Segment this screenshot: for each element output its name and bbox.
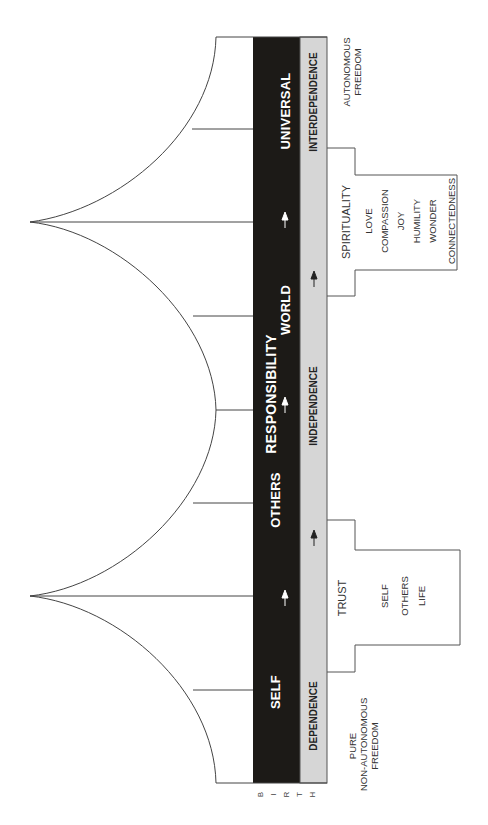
- label-others: OTHERS: [268, 470, 284, 530]
- trust-item: OTHERS: [399, 571, 411, 621]
- spirituality-item: HUMILITY: [411, 181, 423, 261]
- diagram-canvas: [0, 0, 488, 825]
- label-independence: INDEPENDENCE: [308, 361, 320, 451]
- spirituality-title: SPIRITUALITY: [339, 172, 353, 272]
- spirituality-item: COMPASSION: [379, 181, 391, 261]
- spirituality-item: LOVE: [363, 181, 375, 261]
- trust-title: TRUST: [335, 568, 349, 628]
- curve-bottom: [30, 596, 216, 783]
- note-autonomous-freedom: AUTONOMOUS FREEDOM: [341, 37, 365, 107]
- note-pure-freedom: PURE NON-AUTONOMOUS FREEDOM: [347, 701, 383, 791]
- spirituality-item: CONNECTEDNESS: [446, 176, 458, 266]
- label-dependence: DEPENDENCE: [308, 676, 320, 756]
- birth-label: B I R T H: [256, 790, 336, 799]
- label-responsibility: RESPONSIBILITY: [262, 329, 280, 459]
- curve-middle: [30, 222, 216, 596]
- label-universal: UNIVERSAL: [278, 66, 294, 156]
- label-world: WORLD: [278, 280, 294, 340]
- curve-top: [30, 37, 216, 222]
- spirituality-item: JOY: [395, 181, 407, 261]
- trust-item: LIFE: [416, 571, 428, 621]
- label-interdependence: INTERDEPENDENCE: [308, 47, 320, 157]
- trust-item: SELF: [379, 571, 391, 621]
- label-self: SELF: [268, 662, 284, 722]
- spirituality-item: WONDER: [427, 181, 439, 261]
